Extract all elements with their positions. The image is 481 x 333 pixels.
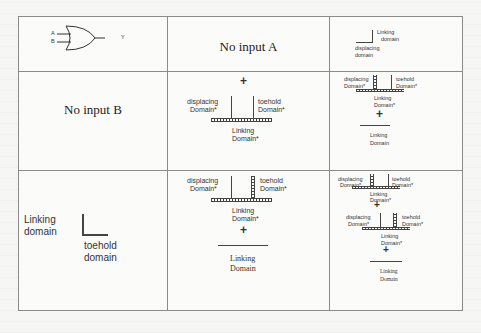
linking-label: Linking <box>232 127 254 135</box>
linking-domain-strand <box>372 30 373 43</box>
output-y-label: Y <box>121 34 125 41</box>
domain-label: domain <box>355 52 373 59</box>
toehold-strand <box>82 234 108 236</box>
displacing-label: displacing <box>344 76 368 83</box>
domain-label: domain <box>24 226 57 237</box>
toehold-label: toehold <box>84 240 117 251</box>
domain-label: Domain <box>370 140 389 147</box>
toehold-duplex <box>251 176 255 198</box>
no-input-b-label: No input B <box>19 102 167 118</box>
linking-label: Linking <box>230 254 255 263</box>
linking-label: Linking <box>370 132 387 139</box>
toehold-strand <box>391 75 392 90</box>
linking-duplex <box>362 227 410 230</box>
toehold-label: toehold <box>260 177 283 185</box>
plus-sign: + <box>383 244 389 255</box>
plus-sign: + <box>376 107 383 121</box>
linking-label: Linking <box>374 95 391 102</box>
toehold-duplex <box>393 213 397 227</box>
toehold-label: toehold <box>396 76 414 83</box>
domain-star-label: Domain* <box>232 135 259 143</box>
displacing-duplex <box>373 75 377 89</box>
linking-strand <box>360 125 390 126</box>
cell-output-strand: Linking domain displacing domain <box>330 17 463 71</box>
domain-star-label: Domain* <box>190 106 217 114</box>
plus-sign: + <box>374 199 380 210</box>
domain-star-label: Domain* <box>260 185 287 193</box>
linking-strand <box>370 261 402 262</box>
plus-sign: + <box>240 223 247 237</box>
displacing-strand <box>231 96 232 119</box>
cell-gate-complex-small: displacing Domain* toehold Domain* Linki… <box>330 72 463 170</box>
plus-sign: + <box>240 74 247 88</box>
linking-duplex <box>356 89 404 92</box>
domain-label: Domain <box>380 276 398 283</box>
domain-star-label: Domain* <box>258 106 285 114</box>
domain-star-label: Domain* <box>232 215 259 223</box>
linking-strand <box>82 214 84 236</box>
cell-or-gate: A B Y <box>19 17 167 71</box>
linking-strand <box>218 245 268 246</box>
toehold-label: toehold <box>402 214 420 221</box>
toehold-label: toehold <box>258 98 281 106</box>
displacing-strand <box>380 213 381 228</box>
truth-table: A B Y No input A Linking domain displaci… <box>18 16 463 311</box>
cell-gate-complex: + displacing Domain* toehold Domain* Lin… <box>168 72 329 170</box>
cell-linking-toehold: Linking domain toehold domain <box>19 171 167 311</box>
displacing-strand <box>231 176 232 199</box>
cell-reaction-sequence: displacing Domain* toehold Domain* Linki… <box>330 171 463 311</box>
domain-label: Domain <box>230 264 256 273</box>
linking-duplex <box>211 198 272 202</box>
linking-duplex <box>352 186 400 189</box>
linking-label: Linking <box>232 207 254 215</box>
domain-label: domain <box>381 36 399 43</box>
no-input-a-label: No input A <box>168 39 329 55</box>
linking-label: Linking <box>380 268 397 275</box>
linking-label: Linking <box>381 233 398 240</box>
displacing-label: displacing <box>187 177 218 185</box>
cell-output-complex: displacing Domain* toehold Domain* Linki… <box>168 171 329 311</box>
linking-label: Linking <box>377 29 394 36</box>
displacing-label: displacing <box>187 98 218 106</box>
cell-no-input-b: No input B <box>19 72 167 170</box>
domain-star-label: Domain* <box>190 185 217 193</box>
displacing-duplex <box>370 174 374 186</box>
displacing-domain-strand <box>356 42 372 43</box>
linking-label: Linking <box>24 214 56 225</box>
cell-no-input-a: No input A <box>168 17 329 71</box>
linking-duplex <box>211 118 272 122</box>
displacing-label: displacing <box>355 45 379 52</box>
displacing-label: displacing <box>346 214 370 221</box>
domain-label: domain <box>84 252 117 263</box>
toehold-strand <box>253 96 254 119</box>
